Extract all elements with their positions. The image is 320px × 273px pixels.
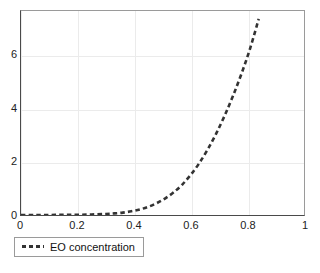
legend-line-swatch xyxy=(22,245,44,248)
x-axis-tick-labels: 00.20.40.60.81 xyxy=(0,219,320,233)
x-tick-label: 1 xyxy=(288,219,320,231)
x-tick-label: 0.6 xyxy=(174,219,208,231)
series-eo-concentration xyxy=(21,11,304,215)
x-tick-label: 0 xyxy=(3,219,37,231)
x-tick-label: 0.4 xyxy=(117,219,151,231)
legend-label: EO concentration xyxy=(50,241,135,253)
legend: EO concentration xyxy=(14,237,144,257)
plot-area xyxy=(20,10,305,216)
y-tick-label: 4 xyxy=(1,103,17,114)
eo-concentration-line xyxy=(21,19,259,215)
x-tick-label: 0.2 xyxy=(60,219,94,231)
x-tick-label: 0.8 xyxy=(231,219,265,231)
y-tick-label: 6 xyxy=(1,49,17,60)
y-tick-label: 2 xyxy=(1,156,17,167)
chart-figure: 0246 00.20.40.60.81 EO concentration xyxy=(0,0,320,273)
